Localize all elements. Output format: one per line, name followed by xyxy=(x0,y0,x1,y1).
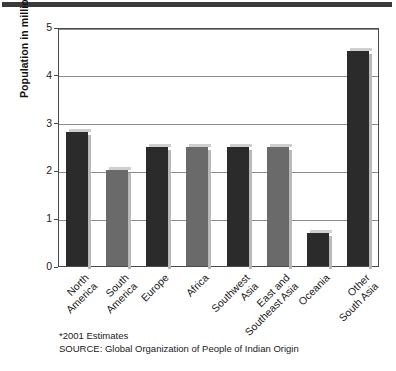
x-axis-label-line1: Africa xyxy=(184,271,211,298)
x-axis-label-line1: South xyxy=(103,271,131,299)
bar-body xyxy=(267,147,289,267)
x-axis-label-line2: America xyxy=(104,280,139,315)
x-axis-label-line1: Southwest xyxy=(208,271,251,314)
bar-shadow-right xyxy=(168,150,171,270)
y-axis-tick-4: 4 xyxy=(22,69,52,81)
bar-east-and-southeast-asia xyxy=(267,147,289,267)
y-axis-tick-0: 0 xyxy=(22,260,52,272)
y-axis-title: Population in millions* xyxy=(18,0,32,98)
bar-body xyxy=(106,170,128,266)
bar-shadow-right xyxy=(249,150,252,270)
bar-body xyxy=(347,51,369,266)
bar-body xyxy=(186,147,208,267)
x-axis-label-south-america: SouthAmerica xyxy=(96,272,139,315)
x-axis-label-line2: America xyxy=(64,280,99,315)
bar-shadow-right xyxy=(329,236,332,269)
y-axis-tick-1: 1 xyxy=(22,212,52,224)
x-axis-label-line1: North xyxy=(64,271,91,298)
chart-figure: Population in millions* 012345 NorthAmer… xyxy=(0,0,396,371)
y-axis-tick-3: 3 xyxy=(22,117,52,129)
plot-area xyxy=(58,28,379,267)
bar-south-america xyxy=(106,170,128,266)
x-axis-label-line1: Oceania xyxy=(295,271,331,307)
bar-north-america xyxy=(66,132,88,266)
bar-shadow-right xyxy=(369,54,372,269)
x-axis-label-oceania: Oceania xyxy=(296,272,332,308)
bar-other-south-asia xyxy=(347,51,369,266)
y-axis-tick-5: 5 xyxy=(22,21,52,33)
bar-shadow-right xyxy=(128,173,131,269)
gridline xyxy=(59,76,378,77)
x-axis-label-other-south-asia: OtherSouth Asia xyxy=(328,272,380,324)
bar-shadow-right xyxy=(289,150,292,270)
footnote-estimates: *2001 Estimates xyxy=(59,330,299,343)
bar-shadow-right xyxy=(208,150,211,270)
x-axis-label-east-and-southeast-asia: East andSoutheast Asia xyxy=(234,272,300,338)
x-axis-label-africa: Africa xyxy=(184,272,211,299)
x-axis-label-line1: East and xyxy=(254,271,292,309)
x-axis-label-line1: Other xyxy=(345,271,372,298)
footnote-source: SOURCE: Global Organization of People of… xyxy=(59,343,299,356)
gridline xyxy=(59,124,378,125)
bar-body xyxy=(146,147,168,267)
x-axis-label-north-america: NorthAmerica xyxy=(56,272,99,315)
bar-europe xyxy=(146,147,168,267)
bar-body xyxy=(66,132,88,266)
bar-southwest-asia xyxy=(227,147,249,267)
x-axis-label-europe: Europe xyxy=(139,272,171,304)
x-axis-label-southwest-asia: SouthwestAsia xyxy=(209,272,260,323)
footnotes: *2001 Estimates SOURCE: Global Organizat… xyxy=(59,330,299,355)
bar-africa xyxy=(186,147,208,267)
bar-shadow-right xyxy=(88,135,91,269)
bar-body xyxy=(227,147,249,267)
x-axis-label-line2: South Asia xyxy=(337,280,381,324)
x-axis-label-line2: Asia xyxy=(217,280,260,323)
bar-oceania xyxy=(307,233,329,266)
gridline xyxy=(59,29,378,30)
header-rule xyxy=(2,2,392,7)
bar-body xyxy=(307,233,329,266)
x-axis-label-line1: Europe xyxy=(139,271,171,303)
y-axis-tick-2: 2 xyxy=(22,164,52,176)
